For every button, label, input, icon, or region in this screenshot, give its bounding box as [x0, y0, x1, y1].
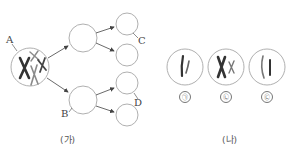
- cell-digeut: [249, 49, 285, 85]
- arrow-mother-to-top: [48, 46, 68, 58]
- arrow-bottom-to-d3: [96, 88, 114, 95]
- cell-nieun: [208, 49, 244, 85]
- label-D: D: [134, 98, 142, 108]
- label-C: C: [138, 36, 146, 46]
- arrow-mother-to-bottom: [47, 78, 68, 92]
- cell-giyeok: [167, 49, 203, 85]
- caption-part-b: (나): [222, 136, 237, 145]
- cell-label-digeut: ㉢: [261, 91, 273, 103]
- arrow-top-to-d1: [96, 27, 114, 33]
- label-B: B: [61, 109, 68, 119]
- caption-part-a: (가): [60, 136, 75, 145]
- daughter-cell-2: [116, 44, 138, 66]
- pointer-A: [12, 44, 17, 51]
- cell-label-nieun: ㉡: [220, 91, 232, 103]
- label-A: A: [6, 35, 13, 45]
- middle-cell-bottom: [69, 86, 97, 114]
- daughter-cell-3: [116, 72, 138, 94]
- part-b-cells: [167, 49, 285, 85]
- arrow-bottom-to-d4: [96, 106, 114, 112]
- middle-cell-top: [69, 24, 97, 52]
- cell-label-giyeok: ㉠: [179, 91, 191, 103]
- arrow-top-to-d2: [96, 43, 114, 51]
- pointer-B: [69, 108, 72, 112]
- part-a-cells: [11, 13, 138, 126]
- daughter-cell-1: [116, 13, 138, 35]
- meiosis-diagram: [0, 0, 297, 158]
